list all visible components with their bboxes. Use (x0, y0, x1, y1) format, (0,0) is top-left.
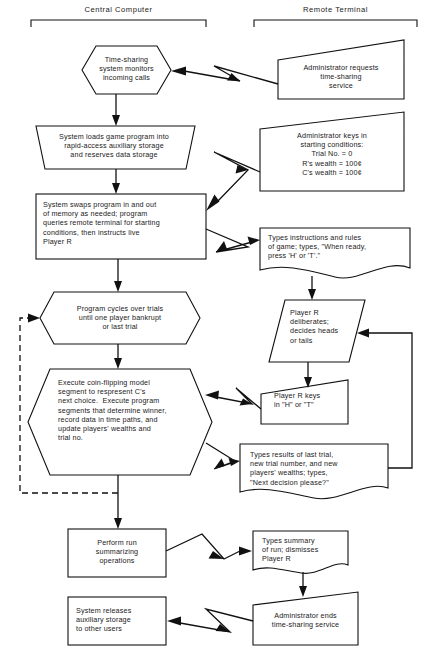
node-perform-run-summarizing[interactable] (68, 529, 166, 577)
flowchart-canvas (0, 0, 426, 659)
node-player-r-keys-h-or-t[interactable] (261, 380, 348, 424)
arrow-n5-to-n6 (114, 475, 122, 529)
loop-r6-to-r4-arrowhead (357, 329, 369, 338)
node-system-releases-storage[interactable] (68, 597, 166, 645)
header-central-computer: Central Computer (31, 5, 206, 14)
node-administrator-ends-service[interactable] (253, 592, 358, 645)
node-time-sharing-monitor[interactable] (82, 46, 171, 94)
link-n6-to-r7 (166, 534, 252, 559)
arrow-n3-to-n4 (114, 259, 122, 292)
link-n5-to-r6 (206, 443, 240, 469)
node-types-summary-of-run[interactable] (253, 531, 348, 573)
node-administrator-keys-starting-conditions[interactable] (260, 112, 404, 191)
link-r8-to-n7 (167, 609, 253, 632)
arrow-n4-to-n5 (114, 344, 122, 369)
node-types-instructions-rules[interactable] (260, 228, 410, 278)
header-remote-terminal: Remote Terminal (254, 5, 417, 14)
arrow-r7-to-r8 (299, 572, 307, 597)
node-types-results-last-trial[interactable] (240, 444, 388, 499)
node-administrator-requests-service[interactable] (278, 40, 404, 99)
arrow-r3-to-r4 (308, 276, 316, 300)
loop-n5-to-n4-arrowhead (28, 314, 40, 323)
link-r2-to-n3 (206, 152, 260, 211)
bracket-remote-terminal (254, 20, 417, 27)
node-program-cycles-over-trials[interactable] (40, 292, 200, 344)
arrow-n1-to-n2 (112, 94, 120, 126)
link-n3-to-r3 (206, 229, 260, 252)
node-system-swaps-program[interactable] (36, 194, 206, 259)
node-player-r-deliberates[interactable] (269, 300, 365, 362)
link-r1-to-n1 (171, 66, 278, 84)
node-execute-coin-flipping-model[interactable] (28, 369, 212, 475)
node-system-loads-game-program[interactable] (36, 126, 195, 169)
bracket-central-computer (31, 20, 206, 27)
link-r5-to-n5 (205, 388, 261, 409)
arrow-n2-to-n3 (112, 169, 120, 194)
arrow-r4-to-r5 (304, 362, 312, 388)
